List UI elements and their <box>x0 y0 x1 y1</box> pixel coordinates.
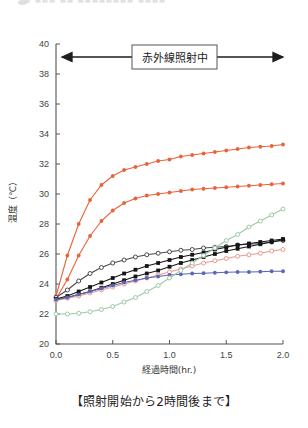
y-tick-label: 30 <box>39 189 49 199</box>
y-tick-label: 20 <box>39 339 49 349</box>
y-tick-label: 38 <box>39 69 49 79</box>
x-tick-label: 0.0 <box>50 350 63 360</box>
irradiation-annotation: 赤外線照射中 <box>62 45 283 69</box>
y-tick-label: 24 <box>39 279 49 289</box>
y-axis-ticks: 2022242628303234363840 <box>39 39 60 349</box>
clipped-header-text: ■ ■■■ ■■ ■■■■■■■■ ■■■■ <box>24 0 166 5</box>
x-tick-label: 1.0 <box>163 350 176 360</box>
figure-caption: 【照射開始から2時間後まで】 <box>0 392 308 409</box>
annotation-label: 赤外線照射中 <box>142 51 208 65</box>
data-series-layer <box>54 143 285 316</box>
x-axis-ticks: 0.00.51.01.52.0 <box>50 340 290 360</box>
x-tick-label: 0.5 <box>106 350 119 360</box>
x-tick-label: 1.5 <box>220 350 233 360</box>
y-tick-label: 40 <box>39 39 49 49</box>
y-tick-label: 36 <box>39 99 49 109</box>
y-tick-label: 28 <box>39 219 49 229</box>
x-axis-label: 経過時間(hr.) <box>142 364 196 375</box>
y-axis-label: 温度（℃） <box>7 177 18 223</box>
y-tick-label: 32 <box>39 159 49 169</box>
clipped-header-strip: ■ ■■■ ■■ ■■■■■■■■ ■■■■ <box>0 0 308 9</box>
chart-figure: 2022242628303234363840 0.00.51.01.52.0 赤… <box>0 10 308 382</box>
x-tick-label: 2.0 <box>277 350 290 360</box>
y-tick-label: 22 <box>39 309 49 319</box>
temperature-line-chart: 2022242628303234363840 0.00.51.01.52.0 赤… <box>0 10 308 382</box>
y-tick-label: 26 <box>39 249 49 259</box>
chart-page: ■ ■■■ ■■ ■■■■■■■■ ■■■■ 20222426283032343… <box>0 0 308 428</box>
y-tick-label: 34 <box>39 129 49 139</box>
